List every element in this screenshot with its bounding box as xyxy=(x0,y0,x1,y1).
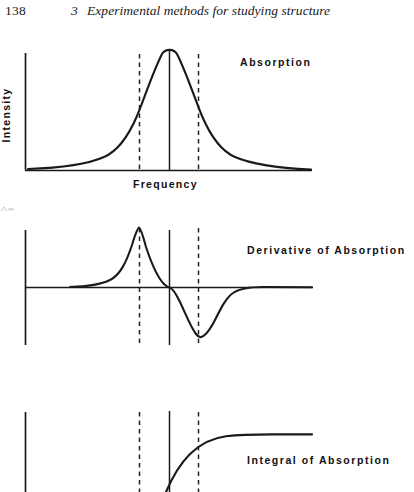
page-folio: 138 xyxy=(5,3,26,19)
integral-plot xyxy=(0,402,414,492)
derivative-plot xyxy=(0,206,414,402)
y-axis-label-intensity: Intensity xyxy=(0,88,12,143)
lineshape-figure: Absorption Intensity Frequency Derivativ… xyxy=(0,24,414,468)
panel-absorption: Absorption Intensity Frequency xyxy=(0,24,414,206)
panel-derivative: Derivative of Absorption xyxy=(0,206,414,402)
running-head: 138 3 Experimental methods for studying … xyxy=(0,0,414,24)
chapter-number: 3 xyxy=(71,3,78,19)
absorption-plot xyxy=(0,24,414,206)
x-axis-label-frequency: Frequency xyxy=(133,178,198,190)
chapter-title: Experimental methods for studying struct… xyxy=(87,3,330,19)
panel-label-derivative: Derivative of Absorption xyxy=(247,244,406,256)
panel-integral: Integral of Absorption xyxy=(0,402,414,468)
panel-label-integral: Integral of Absorption xyxy=(247,454,390,466)
panel-label-absorption: Absorption xyxy=(240,56,312,68)
